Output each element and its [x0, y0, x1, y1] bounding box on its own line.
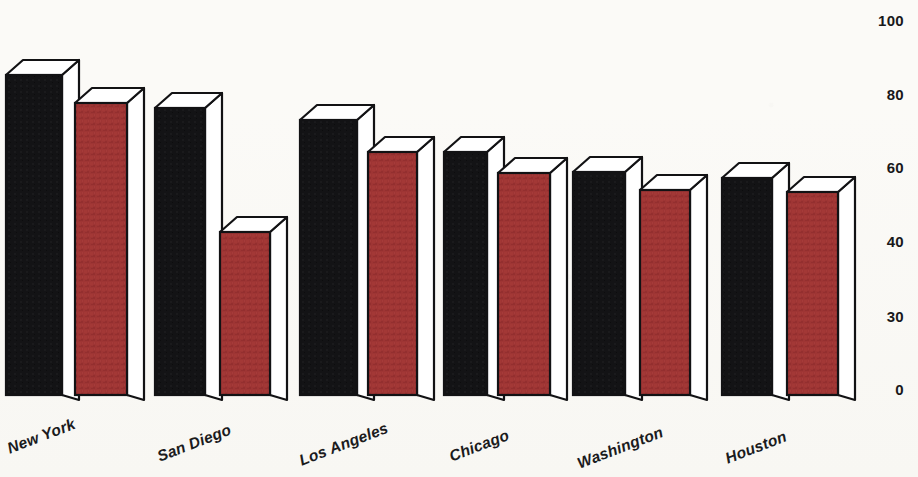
y-tick-label-80: 80 [852, 86, 904, 103]
bar-los-angeles-series1 [300, 105, 374, 400]
bar-san-diego-series2 [220, 217, 287, 400]
bar-chicago-series1 [444, 137, 504, 400]
bar-los-angeles-series2 [368, 137, 434, 400]
bar-new-york-series2 [75, 88, 144, 400]
bar-washington-series1 [573, 157, 642, 400]
bar-houston-series2 [787, 177, 855, 400]
bar-san-diego-series1 [155, 93, 222, 400]
bar-new-york-series1 [6, 60, 79, 400]
bar-houston-series1 [722, 163, 789, 400]
chart-plot-area [0, 0, 918, 477]
y-tick-label-100: 100 [852, 12, 904, 29]
y-tick-label-60: 60 [852, 159, 904, 176]
y-tick-label-0: 0 [852, 381, 904, 398]
bar-chart-figure: 100806040300 New YorkSan DiegoLos Angele… [0, 0, 918, 477]
bars-layer [6, 60, 855, 400]
bar-chicago-series2 [498, 158, 567, 400]
y-tick-label-30: 30 [852, 308, 904, 325]
bar-washington-series2 [640, 175, 707, 400]
y-tick-label-40: 40 [852, 233, 904, 250]
